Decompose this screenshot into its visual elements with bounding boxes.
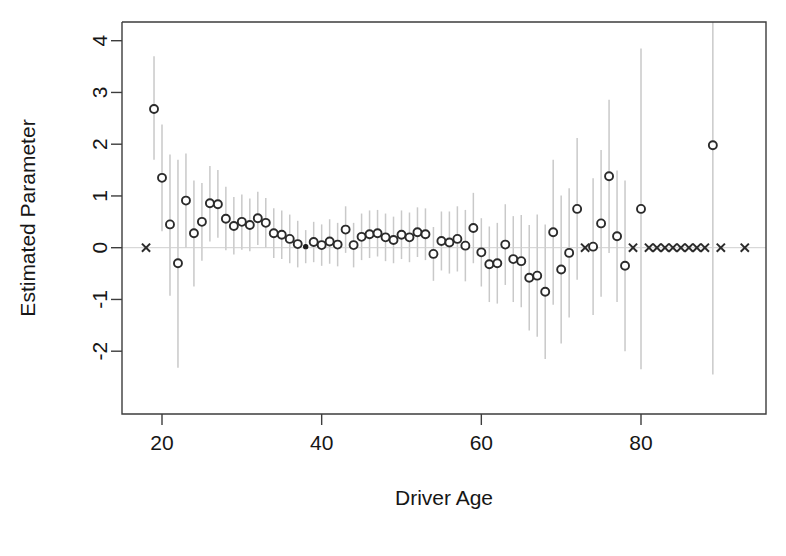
y-tick-label: 4 bbox=[89, 35, 112, 47]
data-point bbox=[382, 233, 390, 241]
x-tick-label: 60 bbox=[470, 431, 493, 454]
data-point bbox=[230, 222, 238, 230]
data-point bbox=[166, 220, 174, 228]
y-tick-label: -2 bbox=[89, 342, 112, 361]
data-point bbox=[398, 231, 406, 239]
data-point bbox=[597, 219, 605, 227]
data-point bbox=[238, 218, 246, 226]
data-point bbox=[318, 241, 326, 249]
data-point bbox=[222, 215, 230, 223]
data-point bbox=[493, 259, 501, 267]
data-point bbox=[445, 239, 453, 247]
y-tick-label: -1 bbox=[89, 290, 112, 309]
data-point bbox=[198, 218, 206, 226]
data-point bbox=[605, 172, 613, 180]
data-point bbox=[262, 219, 270, 227]
data-point bbox=[421, 230, 429, 238]
y-tick-label: 0 bbox=[89, 242, 112, 254]
y-tick-label: 1 bbox=[89, 190, 112, 202]
data-point bbox=[350, 241, 358, 249]
data-point bbox=[461, 242, 469, 250]
figure-panel: 20406080 -2-101234 Driver Age Estimated … bbox=[0, 0, 786, 556]
data-point bbox=[310, 238, 318, 246]
data-point bbox=[517, 257, 525, 265]
data-point bbox=[509, 255, 517, 263]
data-point bbox=[413, 228, 421, 236]
data-point bbox=[278, 231, 286, 239]
data-point bbox=[549, 228, 557, 236]
data-point bbox=[637, 205, 645, 213]
data-point bbox=[366, 230, 374, 238]
data-point bbox=[485, 260, 493, 268]
data-point bbox=[390, 236, 398, 244]
data-point bbox=[573, 205, 581, 213]
data-point bbox=[174, 259, 182, 267]
data-point bbox=[286, 235, 294, 243]
y-axis-title: Estimated Parameter bbox=[16, 119, 39, 316]
data-point bbox=[158, 174, 166, 182]
x-tick-label: 20 bbox=[150, 431, 173, 454]
x-axis-title: Driver Age bbox=[395, 486, 493, 509]
data-point bbox=[182, 197, 190, 205]
data-point bbox=[254, 214, 262, 222]
x-tick-label: 80 bbox=[629, 431, 652, 454]
data-point bbox=[533, 272, 541, 280]
data-point bbox=[326, 237, 334, 245]
data-point bbox=[190, 229, 198, 237]
data-point bbox=[477, 248, 485, 256]
data-point bbox=[214, 200, 222, 208]
data-point bbox=[469, 224, 477, 232]
data-point bbox=[525, 274, 533, 282]
data-point bbox=[374, 229, 382, 237]
data-point bbox=[150, 105, 158, 113]
data-point bbox=[294, 240, 302, 248]
chart-background bbox=[0, 0, 786, 556]
data-point bbox=[206, 199, 214, 207]
data-point bbox=[405, 233, 413, 241]
data-point bbox=[429, 250, 437, 258]
data-point bbox=[557, 265, 565, 273]
data-point bbox=[613, 232, 621, 240]
data-point bbox=[589, 243, 597, 251]
data-point bbox=[437, 237, 445, 245]
data-point bbox=[709, 141, 717, 149]
data-point bbox=[342, 226, 350, 234]
data-point bbox=[334, 241, 342, 249]
data-point bbox=[270, 229, 278, 237]
y-tick-label: 2 bbox=[89, 138, 112, 150]
data-point-filled bbox=[304, 245, 308, 249]
data-point bbox=[246, 221, 254, 229]
data-point bbox=[541, 288, 549, 296]
data-point bbox=[621, 262, 629, 270]
y-tick-label: 3 bbox=[89, 87, 112, 99]
data-point bbox=[501, 241, 509, 249]
data-point bbox=[565, 249, 573, 257]
data-point bbox=[453, 235, 461, 243]
estimated-parameter-vs-driver-age-chart: 20406080 -2-101234 Driver Age Estimated … bbox=[0, 0, 786, 556]
x-tick-label: 40 bbox=[310, 431, 333, 454]
data-point bbox=[358, 233, 366, 241]
